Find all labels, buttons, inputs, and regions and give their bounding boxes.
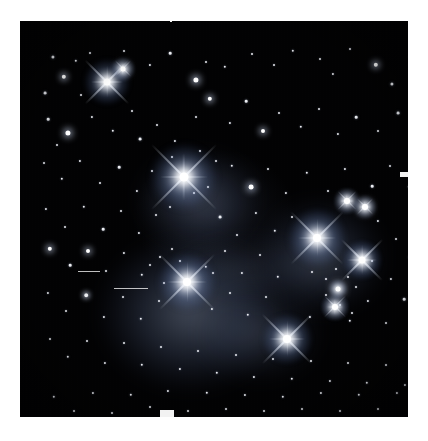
edge-nick-right [400,172,409,177]
edge-nick-bottom [160,410,174,419]
edge-nick-top [170,0,172,22]
photograph-page [0,0,428,441]
print-edge-layer [0,0,428,441]
